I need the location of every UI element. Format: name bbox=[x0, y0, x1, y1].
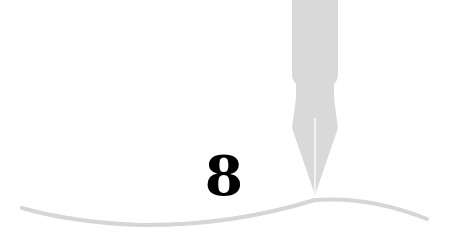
chapter-illustration: 8 bbox=[0, 0, 452, 243]
fountain-pen-icon bbox=[292, 0, 338, 195]
chapter-number: 8 bbox=[203, 146, 245, 206]
